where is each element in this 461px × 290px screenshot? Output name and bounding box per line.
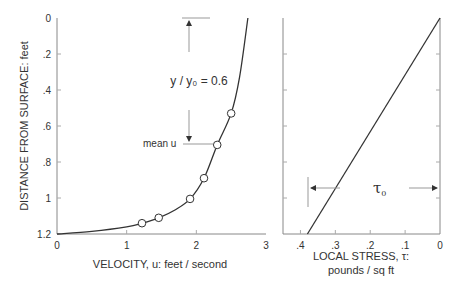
y-tick-label: 1.2 <box>37 229 51 240</box>
x-tick-label: 3 <box>263 240 269 251</box>
left-y-axis-title: DISTANCE FROM SURFACE: feet <box>18 41 30 211</box>
right-x-axis-title: LOCAL STRESS, τ: <box>313 250 409 262</box>
velocity-curve <box>57 18 248 234</box>
y-tick-label: 0 <box>45 13 51 24</box>
y-tick-label: .6 <box>43 121 52 132</box>
tau0-label: τ0 <box>373 179 386 198</box>
data-point <box>138 219 146 227</box>
y-tick-label: 1 <box>45 193 51 204</box>
velocity-chart: 0123 0.2.4.6.811.2 y / y₀ = 0.6 mean u V… <box>18 13 269 270</box>
figure: 0123 0.2.4.6.811.2 y / y₀ = 0.6 mean u V… <box>0 0 461 290</box>
right-x-axis-subtitle: pounds / sq ft <box>328 264 394 276</box>
depth-ratio-label: y / y₀ = 0.6 <box>170 74 228 88</box>
stress-chart: .4.3.2.10 τ0 LOCAL STRESS, τ: pounds / s… <box>283 18 443 276</box>
y-tick-label: .8 <box>43 157 52 168</box>
x-tick-label: 0 <box>437 240 443 251</box>
y-tick-label: .4 <box>43 85 52 96</box>
data-point <box>186 195 194 203</box>
x-tick-label: 2 <box>194 240 200 251</box>
x-tick-label: 0 <box>54 240 60 251</box>
left-x-axis-title: VELOCITY, u: feet / second <box>93 258 227 270</box>
data-point <box>227 110 235 118</box>
data-point <box>155 214 163 222</box>
data-point <box>200 174 208 182</box>
data-point <box>213 141 221 149</box>
y-tick-label: .2 <box>43 49 52 60</box>
stress-line <box>307 18 440 234</box>
x-tick-label: .4 <box>296 240 305 251</box>
x-tick-label: 1 <box>124 240 130 251</box>
mean-u-label: mean u <box>143 138 176 149</box>
